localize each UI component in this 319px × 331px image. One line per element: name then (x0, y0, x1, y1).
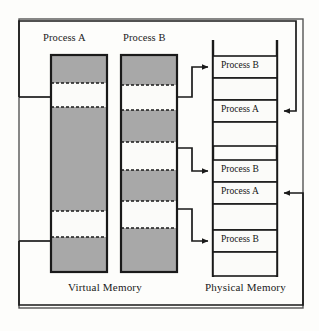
process-b-column-title: Process B (123, 33, 166, 44)
process-a-segment-allocated-3 (51, 237, 107, 272)
process-b-segment-allocated-3 (121, 170, 177, 201)
process-b-column (121, 55, 177, 272)
physical-frame-4 (213, 122, 277, 146)
process-b-segment-allocated-1 (121, 55, 177, 85)
process-b-segment-free-2 (121, 142, 177, 170)
virtual-memory-footer-label: Virtual Memory (68, 282, 142, 293)
physical-frame-7 (213, 204, 277, 230)
process-a-column (51, 55, 107, 272)
physical-frame-9 (213, 252, 277, 276)
physical-frame-8-label: Process B (221, 235, 259, 245)
process-a-column-title: Process A (43, 33, 86, 44)
process-a-segment-free-1 (51, 83, 107, 107)
process-b-segment-allocated-2 (121, 110, 177, 142)
process-a-segment-allocated-2 (51, 107, 107, 211)
process-b-segment-free-3 (121, 201, 177, 228)
page-mapping-connectors (177, 67, 208, 241)
physical-frame-1-label: Process B (221, 61, 259, 71)
physical-memory-footer-label: Physical Memory (205, 282, 286, 293)
connector-b-page-1-to-frame-1 (177, 67, 208, 97)
memory-mapping-diagram: Process A Process B Process B Process A … (0, 0, 319, 331)
physical-frame-2 (213, 78, 277, 100)
physical-frame-6-label: Process A (221, 187, 259, 197)
connector-b-page-2-to-frame-5 (177, 148, 208, 171)
process-b-segment-allocated-4 (121, 228, 177, 272)
physical-frame-5-label: Process B (221, 165, 259, 175)
process-a-segment-allocated-1 (51, 55, 107, 83)
physical-frame-3-label: Process A (221, 105, 259, 115)
process-a-segment-free-2 (51, 211, 107, 237)
process-b-segment-free-1 (121, 85, 177, 110)
connector-b-page-3-to-frame-8 (177, 209, 208, 241)
